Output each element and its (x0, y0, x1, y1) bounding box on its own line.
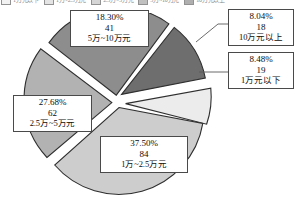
pie-chart-figure: 1万元以下 1万~2.5万元 2.5万~5万元 5万~10万元 10万元以上 (0, 0, 297, 212)
callout-10k-25k[interactable]: 37.50% 84 1万~2.5万元 (100, 136, 188, 173)
legend-label-50k-100k: 5万~10万元 (150, 0, 179, 4)
callout-25k-50k-pct: 27.68% (17, 97, 88, 108)
callout-over-100k-count: 18 (232, 22, 290, 33)
callout-50k-100k-category: 5万~10万元 (74, 33, 145, 44)
callout-10k-25k-count: 84 (104, 149, 184, 160)
legend-item-under-10k[interactable]: 1万元以下 (1, 0, 39, 5)
legend-item-over-100k[interactable]: 10万元以上 (184, 0, 225, 5)
legend-swatch-50k-100k (138, 0, 148, 5)
callout-10k-25k-category: 1万~2.5万元 (104, 159, 184, 170)
callout-50k-100k-pct: 18.30% (74, 12, 145, 23)
legend-swatch-10k-25k (44, 0, 54, 5)
legend-label-over-100k: 10万元以上 (196, 0, 225, 4)
legend-swatch-25k-50k (91, 0, 101, 5)
callout-over-100k-pct: 8.04% (232, 11, 290, 22)
legend-item-50k-100k[interactable]: 5万~10万元 (138, 0, 179, 5)
legend-item-10k-25k[interactable]: 1万~2.5万元 (44, 0, 86, 5)
callout-under-10k-count: 19 (232, 65, 290, 76)
callout-50k-100k[interactable]: 18.30% 41 5万~10万元 (70, 10, 149, 47)
callout-50k-100k-count: 41 (74, 23, 145, 34)
callout-under-10k-pct: 8.48% (232, 54, 290, 65)
callout-over-100k[interactable]: 8.04% 18 10万元以上 (228, 9, 294, 46)
callout-over-100k-category: 10万元以上 (232, 32, 290, 43)
callout-25k-50k-category: 2.5万~5万元 (17, 118, 88, 129)
legend-item-25k-50k[interactable]: 2.5万~5万元 (91, 0, 133, 5)
callout-under-10k-category: 1万元以下 (232, 75, 290, 86)
legend-label-under-10k: 1万元以下 (13, 0, 39, 4)
legend-swatch-over-100k (184, 0, 194, 5)
callout-25k-50k-count: 62 (17, 108, 88, 119)
callout-25k-50k[interactable]: 27.68% 62 2.5万~5万元 (13, 95, 92, 132)
chart-legend: 1万元以下 1万~2.5万元 2.5万~5万元 5万~10万元 10万元以上 (0, 0, 297, 6)
legend-label-25k-50k: 2.5万~5万元 (103, 0, 133, 4)
legend-swatch-under-10k (1, 0, 11, 5)
callout-under-10k[interactable]: 8.48% 19 1万元以下 (228, 52, 294, 89)
legend-label-10k-25k: 1万~2.5万元 (56, 0, 86, 4)
callout-10k-25k-pct: 37.50% (104, 138, 184, 149)
